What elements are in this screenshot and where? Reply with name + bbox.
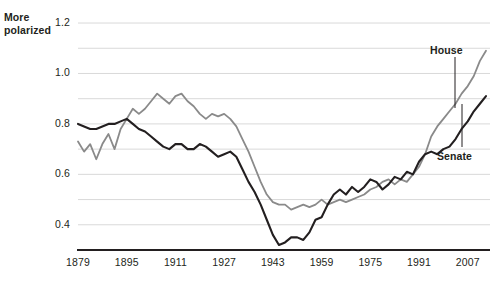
x-axis-tick-label: 1895 <box>106 256 148 268</box>
series-label-senate: Senate <box>437 150 472 162</box>
x-axis-tick-label: 1959 <box>301 256 343 268</box>
x-axis-tick-label: 1991 <box>398 256 440 268</box>
x-axis-tick-label: 1943 <box>252 256 294 268</box>
gridline-group <box>78 23 490 225</box>
x-axis-tick-label: 1911 <box>154 256 196 268</box>
y-axis-tick-label: 0.4 <box>34 218 70 230</box>
y-axis-tick-label: 0.8 <box>34 117 70 129</box>
y-axis-tick-label: 1.2 <box>34 16 70 28</box>
x-axis-tick-label: 1879 <box>57 256 99 268</box>
series-label-house: House <box>430 44 463 56</box>
y-axis-tick-label: 1.0 <box>34 66 70 78</box>
x-axis-tick-label: 2007 <box>447 256 489 268</box>
x-axis-tick-label: 1927 <box>203 256 245 268</box>
polarization-chart: More polarized 0.40.60.81.01.2 187918951… <box>0 0 499 282</box>
y-axis-tick-label: 0.6 <box>34 167 70 179</box>
series-line-senate <box>78 96 486 245</box>
x-axis-tick-label: 1975 <box>349 256 391 268</box>
chart-canvas <box>0 0 499 282</box>
series-group <box>78 51 486 245</box>
